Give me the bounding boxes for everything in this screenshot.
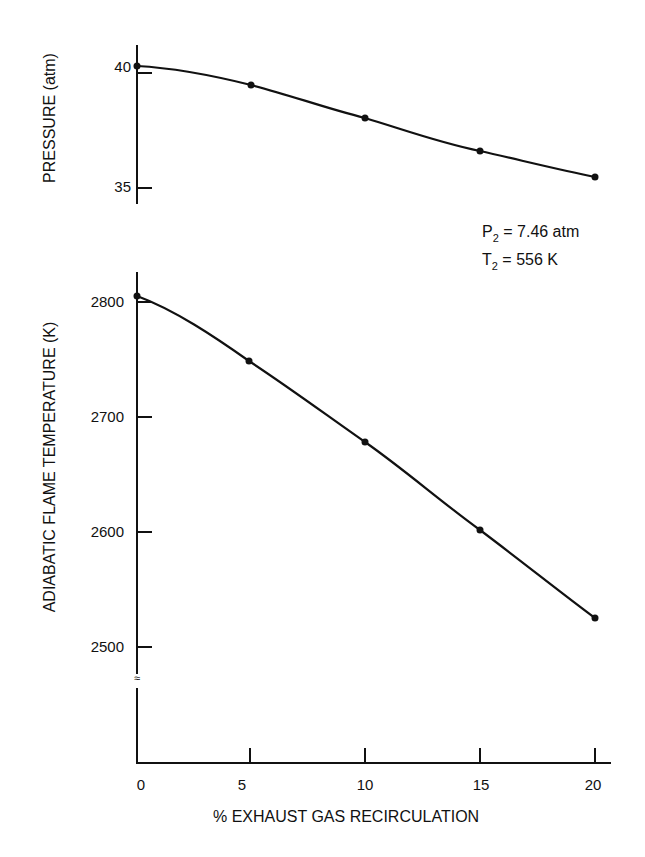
data-point	[134, 63, 141, 70]
temperature-curve	[137, 296, 595, 618]
pressure-axis-title: PRESSURE (atm)	[41, 53, 58, 183]
data-point	[477, 527, 484, 534]
axis-break-symbol: ≈	[134, 672, 140, 684]
temp-tick-label-2500: 2500	[91, 638, 124, 655]
pressure-curve	[137, 66, 595, 177]
pressure-tick-label-40: 40	[114, 58, 131, 75]
x-tick-label-0: 0	[137, 776, 145, 793]
x-tick-label-5: 5	[238, 776, 246, 793]
temp-tick-label-2800: 2800	[91, 293, 124, 310]
temperature-chart: ≈ 2800 2700 2600 2500 ADIABATIC FLAME TE…	[41, 272, 611, 825]
x-tick-label-15: 15	[473, 776, 490, 793]
temp-tick-label-2600: 2600	[91, 523, 124, 540]
temperature-data-points	[134, 293, 599, 622]
data-point	[362, 439, 369, 446]
data-point	[246, 358, 253, 365]
data-point	[248, 82, 255, 89]
pressure-chart: 40 35 PRESSURE (atm)	[41, 45, 599, 204]
conditions-annotation: P2 = 7.46 atm T2 = 556 K	[482, 223, 579, 272]
t2-annotation: T2 = 556 K	[482, 251, 558, 272]
x-axis-title: % EXHAUST GAS RECIRCULATION	[213, 808, 479, 825]
temperature-axis-title: ADIABATIC FLAME TEMPERATURE (K)	[41, 322, 58, 613]
data-point	[592, 615, 599, 622]
data-point	[362, 115, 369, 122]
data-point	[134, 293, 141, 300]
data-point	[592, 174, 599, 181]
x-tick-label-10: 10	[357, 776, 374, 793]
p2-annotation: P2 = 7.46 atm	[482, 223, 579, 244]
chart-figure: 40 35 PRESSURE (atm) P2 = 7.46 atm T2 = …	[0, 0, 645, 857]
data-point	[477, 148, 484, 155]
pressure-tick-label-35: 35	[114, 178, 131, 195]
temp-tick-label-2700: 2700	[91, 408, 124, 425]
x-tick-label-20: 20	[585, 776, 602, 793]
